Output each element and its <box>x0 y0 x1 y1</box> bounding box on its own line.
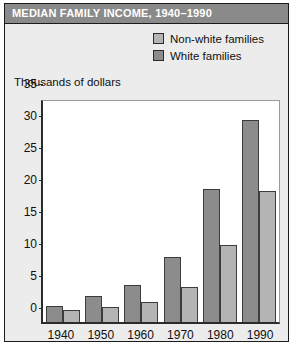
bar-1950-white-families <box>85 296 102 322</box>
y-tick-25: 25 <box>15 141 43 155</box>
y-tick-5: 5 <box>15 269 43 283</box>
legend-item-non-white: Non-white families <box>153 30 283 47</box>
title-bar: MEDIAN FAMILY INCOME, 1940–1990 <box>5 4 288 24</box>
chart-figure: MEDIAN FAMILY INCOME, 1940–1990 Non-whit… <box>0 0 293 358</box>
bar-1950-non-white-families <box>102 307 119 322</box>
y-tick-label: 0 <box>15 301 37 315</box>
bar-1960-white-families <box>124 285 141 322</box>
bar-groups <box>43 101 279 322</box>
bar-1980-non-white-families <box>220 245 237 322</box>
bar-1990-white-families <box>242 120 259 322</box>
y-tick-label: 20 <box>15 173 37 187</box>
legend-swatch-icon-white <box>153 50 164 61</box>
bar-group-1980 <box>203 101 237 322</box>
y-tick-15: 15 <box>15 205 43 219</box>
y-tick-label: 15 <box>15 205 37 219</box>
x-axis-ticks: 194019501960197019801990 <box>41 328 280 342</box>
caption-strip <box>6 348 286 356</box>
bar-1980-white-families <box>203 189 220 322</box>
x-tick-label-1970: 1970 <box>167 328 194 342</box>
bar-1970-white-families <box>164 257 181 322</box>
bar-group-1990 <box>242 101 276 322</box>
y-tick-35: 35 <box>15 77 43 91</box>
y-tick-label: 5 <box>15 269 37 283</box>
y-tick-30: 30 <box>15 109 43 123</box>
y-tick-0: 0 <box>15 301 43 315</box>
plot-area: 05101520253035 <box>41 100 280 324</box>
y-tick-20: 20 <box>15 173 43 187</box>
x-tick-label-1980: 1980 <box>207 328 234 342</box>
y-tick-label: 35 <box>15 77 37 91</box>
x-tick-label-1950: 1950 <box>87 328 114 342</box>
y-tick-label: 30 <box>15 109 37 123</box>
y-tick-label: 10 <box>15 237 37 251</box>
bar-1960-non-white-families <box>141 302 158 322</box>
chart-legend: Non-white families White families <box>153 30 283 64</box>
bar-group-1950 <box>85 101 119 322</box>
y-tick-10: 10 <box>15 237 43 251</box>
bar-1940-white-families <box>46 306 63 322</box>
legend-item-white: White families <box>153 47 283 64</box>
x-tick-label-1960: 1960 <box>127 328 154 342</box>
bar-1940-non-white-families <box>63 310 80 322</box>
bar-1970-non-white-families <box>181 287 198 322</box>
chart-card: MEDIAN FAMILY INCOME, 1940–1990 Non-whit… <box>4 3 289 342</box>
legend-swatch-icon-non-white <box>153 33 164 44</box>
legend-label-white: White families <box>170 50 242 62</box>
bar-1990-non-white-families <box>259 191 276 322</box>
y-tick-mark <box>39 84 43 85</box>
x-tick-label-1990: 1990 <box>247 328 274 342</box>
bar-group-1960 <box>124 101 158 322</box>
y-tick-label: 25 <box>15 141 37 155</box>
x-tick-label-1940: 1940 <box>48 328 75 342</box>
bar-group-1940 <box>46 101 80 322</box>
legend-label-non-white: Non-white families <box>170 33 264 45</box>
chart-title: MEDIAN FAMILY INCOME, 1940–1990 <box>12 7 212 19</box>
bar-group-1970 <box>164 101 198 322</box>
